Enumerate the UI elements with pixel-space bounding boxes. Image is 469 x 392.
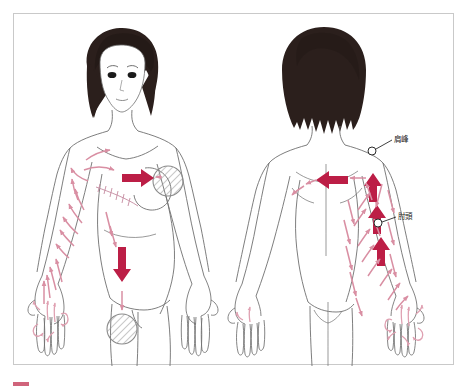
label-olecranon: 肘頭 <box>398 212 413 221</box>
major-arrow-chest-right <box>122 169 154 187</box>
back-figure: 肩峰 肘頭 <box>228 27 424 366</box>
front-right-hand <box>181 276 218 356</box>
back-right-hand <box>387 284 424 357</box>
back-left-hand <box>228 284 265 357</box>
acromion-leader-line <box>376 140 392 149</box>
olecranon-point-marker <box>374 219 382 227</box>
major-arrow-arm-up-3 <box>372 237 390 266</box>
inguinal-node-marker <box>107 314 137 344</box>
front-scar-line <box>96 184 138 206</box>
back-body-outline <box>236 126 416 366</box>
front-left-eye <box>108 72 117 78</box>
major-arrow-back-left <box>316 171 348 189</box>
front-major-arrows <box>113 169 154 282</box>
acromion-point-marker <box>368 147 376 155</box>
front-right-eye <box>128 72 137 78</box>
front-left-hand <box>28 276 65 356</box>
anatomy-illustration: 肩峰 肘頭 <box>14 14 455 366</box>
chest-node-marker <box>153 166 183 196</box>
front-face <box>100 45 145 112</box>
label-acromion: 肩峰 <box>394 134 409 144</box>
front-figure <box>28 28 218 366</box>
caption-marker <box>13 382 29 386</box>
major-arrow-flank-down <box>113 247 131 282</box>
figure-caption <box>13 378 454 392</box>
illustration-frame: 肩峰 肘頭 <box>13 13 454 365</box>
